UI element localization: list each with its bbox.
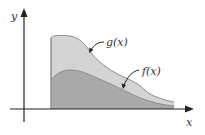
area-between-curves-diagram <box>0 0 205 135</box>
g-label-leader <box>91 42 104 50</box>
x-axis-label: x <box>186 117 192 128</box>
f-curve-label: f(x) <box>142 66 161 77</box>
g-curve-label: g(x) <box>106 37 128 48</box>
y-axis-arrow-icon <box>21 8 28 17</box>
x-axis-arrow-icon <box>185 106 194 113</box>
y-axis-label: y <box>11 11 17 22</box>
